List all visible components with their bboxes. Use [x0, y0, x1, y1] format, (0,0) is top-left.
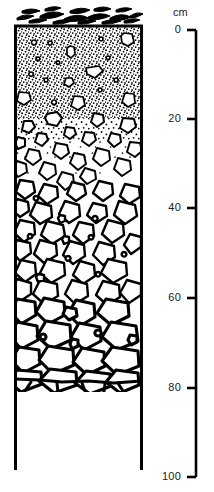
- organic-litter-symbols: [17, 7, 143, 24]
- depth-tick-label-0: 0: [175, 24, 181, 35]
- depth-scale-bar: [187, 30, 196, 477]
- soil-profile-figure: cm 0 20 40 60 80 100: [0, 0, 214, 492]
- depth-unit-label: cm: [173, 7, 188, 18]
- depth-tick-label-100: 100: [162, 471, 181, 482]
- profile-drawing: [0, 0, 214, 492]
- depth-tick-label-20: 20: [168, 113, 181, 124]
- depth-tick-label-60: 60: [168, 292, 181, 303]
- column-interior: [8, 27, 142, 471]
- depth-tick-label-80: 80: [168, 382, 181, 393]
- bedrock-blank-zone: [16, 392, 142, 470]
- depth-tick-label-40: 40: [168, 202, 181, 213]
